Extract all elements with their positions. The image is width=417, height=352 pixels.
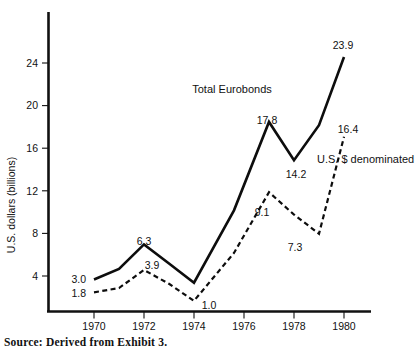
x-tick-label-1978: 1978: [282, 320, 306, 332]
point-label-1974-usd: 1.0: [202, 299, 217, 311]
point-label-1972-usd: 3.9: [145, 259, 160, 271]
chart-figure: 24 20 16 12 8 4 U.S. dollars (billions) …: [0, 0, 417, 352]
y-tick-label-12: 12: [26, 185, 38, 197]
point-label-1977-usd: 9.1: [255, 206, 270, 218]
x-tick-label-1970: 1970: [82, 320, 106, 332]
point-label-1970-usd: 1.8: [71, 287, 86, 299]
total-eurobonds-label: Total Eurobonds: [192, 83, 272, 95]
point-label-1979-usd: 7.3: [288, 241, 303, 253]
x-tick-label-1974: 1974: [182, 320, 206, 332]
y-tick-label-20: 20: [26, 99, 38, 111]
x-tick-label-1980: 1980: [332, 320, 356, 332]
y-axis-title: U.S. dollars (billions): [5, 157, 17, 253]
point-label-1978-total: 14.2: [286, 168, 307, 180]
line-chart: 24 20 16 12 8 4 U.S. dollars (billions) …: [0, 0, 417, 352]
source-note: Source: Derived from Exhibit 3.: [4, 336, 167, 348]
series-line-usd-denominated: [94, 137, 344, 301]
y-tick-label-8: 8: [32, 227, 38, 239]
usd-denominated-label: U.S. $ denominated: [317, 153, 414, 165]
y-tick-label-4: 4: [32, 270, 38, 282]
y-tick-label-16: 16: [26, 142, 38, 154]
point-label-1977-total: 17.8: [257, 114, 278, 126]
x-tick-label-1972: 1972: [132, 320, 156, 332]
point-label-1980-usd: 16.4: [338, 123, 359, 135]
point-label-1980-total: 23.9: [333, 39, 354, 51]
point-label-1972-total: 6.3: [137, 235, 152, 247]
x-tick-label-1976: 1976: [232, 320, 256, 332]
point-label-1970-total: 3.0: [71, 273, 86, 285]
y-tick-label-24: 24: [26, 57, 38, 69]
